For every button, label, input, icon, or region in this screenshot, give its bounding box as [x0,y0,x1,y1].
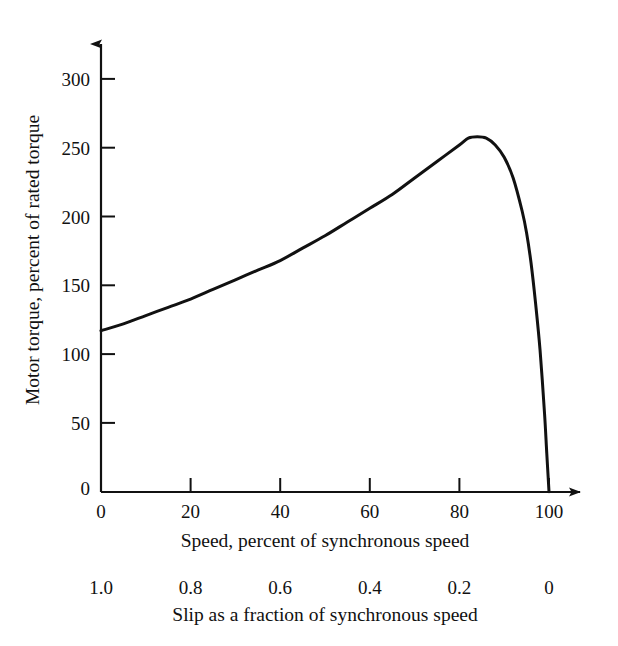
slip-tick-label-0-4: 0.4 [358,578,382,597]
slip-tick-label-0-6: 0.6 [268,578,292,597]
x-tick-label-60: 60 [360,502,379,521]
x-tick-label-100: 100 [535,502,564,521]
y-axis-ticks [101,79,115,423]
torque-speed-chart-figure: 300 250 200 150 100 50 0 0 20 40 60 80 1… [0,0,618,646]
slip-axis-caption: Slip as a fraction of synchronous speed [172,604,477,626]
torque-speed-curve [101,137,549,492]
x-tick-label-0: 0 [96,502,106,521]
x-tick-label-40: 40 [271,502,290,521]
x-axis-caption: Speed, percent of synchronous speed [181,530,470,552]
y-axis-title: Motor torque, percent of rated torque [18,70,48,450]
slip-tick-label-0-8: 0.8 [179,578,203,597]
x-axis-ticks [191,478,549,492]
x-tick-label-20: 20 [181,502,200,521]
y-tick-label-0: 0 [30,479,90,498]
slip-tick-label-0: 0 [544,578,554,597]
y-axis-title-text: Motor torque, percent of rated torque [22,115,44,405]
slip-tick-label-0-2: 0.2 [448,578,472,597]
x-tick-label-80: 80 [450,502,469,521]
slip-tick-label-1-0: 1.0 [89,578,113,597]
